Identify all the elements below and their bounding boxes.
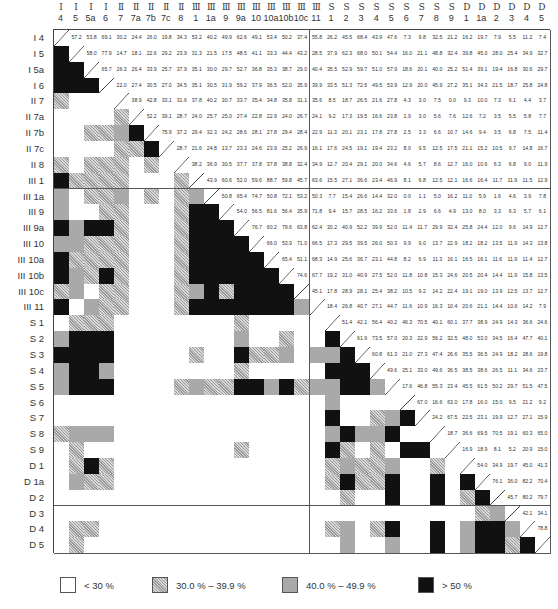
- value-cell: 26.0: [370, 236, 386, 253]
- value-cell: 16.2: [445, 189, 461, 206]
- value-cell: 56.4: [370, 315, 386, 332]
- shaded-cell: [460, 490, 476, 507]
- value-cell: 56.2: [430, 331, 446, 348]
- shaded-cell: [219, 474, 235, 491]
- shaded-cell: [159, 395, 175, 412]
- shaded-cell: [84, 204, 100, 221]
- value-cell: 31.6: [174, 93, 190, 110]
- value-cell: 19.2: [325, 268, 341, 285]
- column-group-label: II: [128, 2, 143, 13]
- shaded-cell: [69, 347, 85, 364]
- value-cell: 47.4: [430, 347, 446, 364]
- value-cell: 45.0: [520, 458, 536, 475]
- shaded-cell: [279, 284, 295, 301]
- value-cell: 74.7: [249, 189, 265, 206]
- value-cell: 15.9: [535, 410, 551, 427]
- shaded-cell: [69, 426, 85, 443]
- value-cell: 33.7: [234, 93, 250, 110]
- shaded-cell: [189, 299, 205, 316]
- value-cell: 60.3: [520, 426, 536, 443]
- value-cell: 60.6: [219, 173, 235, 190]
- legend-swatch-gray: [282, 577, 298, 593]
- shaded-cell: [219, 395, 235, 412]
- value-cell: 75.9: [159, 125, 175, 142]
- shaded-cell: [54, 458, 70, 475]
- value-cell: 16.6: [370, 109, 386, 126]
- column-header: S7: [414, 2, 429, 24]
- shaded-cell: [174, 490, 190, 507]
- value-cell: 59.8: [279, 173, 295, 190]
- shaded-cell: [355, 379, 371, 396]
- value-cell: 34.9: [490, 458, 506, 475]
- value-cell: 11.8: [400, 268, 416, 285]
- value-cell: 11.9: [505, 252, 521, 269]
- value-cell: 35.6: [310, 93, 326, 110]
- shaded-cell: [99, 204, 115, 221]
- value-cell: 77.9: [99, 46, 115, 63]
- column-header: D2: [489, 2, 504, 24]
- shaded-cell: [310, 331, 326, 348]
- shaded-cell: [174, 506, 190, 523]
- shaded-cell: [249, 442, 265, 459]
- value-cell: 53.4: [264, 30, 280, 47]
- value-cell: 51.3: [340, 78, 356, 95]
- shaded-cell: [174, 220, 190, 237]
- shaded-cell: [144, 157, 160, 174]
- value-cell: 26.9: [294, 141, 310, 158]
- shaded-cell: [129, 220, 145, 237]
- value-cell: 8.1: [490, 442, 506, 459]
- shaded-cell: [460, 537, 476, 554]
- shaded-cell: [279, 299, 295, 316]
- value-cell: 68.3: [310, 252, 326, 269]
- value-cell: 22.9: [310, 125, 326, 142]
- row-label: III 9a: [0, 222, 44, 233]
- shaded-cell: [355, 395, 371, 412]
- value-cell: 40.1: [430, 315, 446, 332]
- shaded-cell: [475, 521, 491, 538]
- value-cell: 5.5: [505, 109, 521, 126]
- diagonal-cell: [54, 30, 70, 47]
- value-cell: 10.6: [475, 157, 491, 174]
- column-label: 9a: [236, 13, 246, 23]
- shaded-cell: [174, 537, 190, 554]
- value-cell: 30.5: [204, 78, 220, 95]
- value-cell: 8.0: [400, 141, 416, 158]
- value-cell: 16.1: [310, 141, 326, 158]
- shaded-cell: [385, 490, 401, 507]
- value-cell: 3.5: [490, 109, 506, 126]
- shaded-cell: [370, 474, 386, 491]
- shaded-cell: [340, 379, 356, 396]
- value-cell: 18.6: [400, 62, 416, 79]
- shaded-cell: [189, 284, 205, 301]
- shaded-cell: [189, 458, 205, 475]
- column-label: 7: [419, 13, 424, 23]
- shaded-cell: [54, 125, 70, 142]
- shaded-cell: [279, 521, 295, 538]
- column-group-label: S: [354, 2, 369, 13]
- value-cell: 40.2: [204, 93, 220, 110]
- value-cell: 16.4: [505, 331, 521, 348]
- value-cell: 13.9: [490, 284, 506, 301]
- shaded-cell: [340, 410, 356, 427]
- value-cell: 11.9: [535, 157, 551, 174]
- row-label: II 8: [0, 159, 44, 170]
- value-cell: 26.3: [114, 62, 130, 79]
- shaded-cell: [144, 379, 160, 396]
- value-cell: 17.8: [370, 125, 386, 142]
- value-cell: 36.7: [355, 252, 371, 269]
- value-cell: 19.9: [490, 410, 506, 427]
- value-cell: 44.7: [385, 299, 401, 316]
- shaded-cell: [370, 379, 386, 396]
- value-cell: 35.1: [189, 78, 205, 95]
- value-cell: 22.5: [460, 410, 476, 427]
- value-cell: 53.8: [84, 30, 100, 47]
- shaded-cell: [99, 236, 115, 253]
- shaded-cell: [279, 474, 295, 491]
- value-cell: 63.8: [294, 220, 310, 237]
- shaded-cell: [370, 442, 386, 459]
- shaded-cell: [264, 426, 280, 443]
- column-label: 8: [434, 13, 439, 23]
- value-cell: 25.8: [520, 78, 536, 95]
- value-cell: 36.0: [505, 474, 521, 491]
- value-cell: 2.9: [415, 204, 431, 221]
